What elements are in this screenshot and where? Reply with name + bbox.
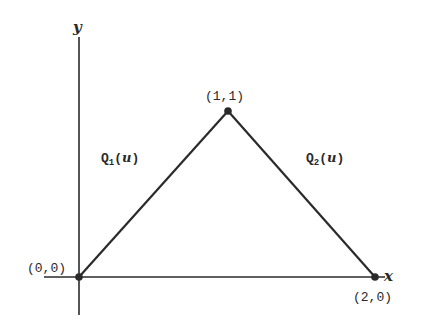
segment-label-q1: Q1(u)	[101, 150, 139, 168]
y-axis-label: y	[72, 18, 83, 36]
point-label-apex: (1,1)	[205, 89, 244, 104]
point-label-end: (2,0)	[353, 290, 392, 305]
segment-label-q2: Q2(u)	[306, 150, 344, 168]
point-label-origin: (0,0)	[27, 261, 66, 276]
x-axis-label: x	[383, 267, 394, 285]
diagram-canvas: y x (0,0) (1,1) (2,0) Q1(u) Q2(u)	[0, 0, 432, 336]
point-apex	[224, 107, 232, 115]
point-origin	[75, 273, 83, 281]
segment-q2	[228, 111, 375, 277]
segment-q1	[79, 111, 228, 277]
point-end	[371, 273, 379, 281]
